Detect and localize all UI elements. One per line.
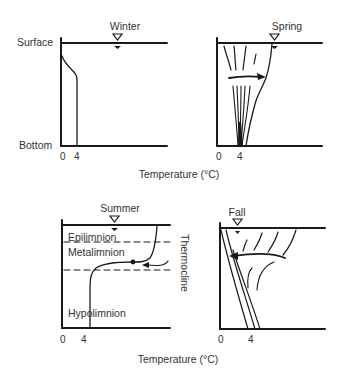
surface-label: Surface: [17, 37, 53, 48]
fall-surface-mixing: [268, 232, 278, 252]
x-axis-label-top: Temperature (°C): [139, 169, 220, 180]
fall-title: Fall: [229, 207, 246, 218]
spring-mixing-line: [243, 46, 246, 70]
fall-mixing-arrow: [233, 254, 285, 258]
water-level-icon: [233, 219, 242, 225]
spring-tick-4: 4: [237, 152, 243, 162]
x-axis-label-bottom: Temperature (°C): [138, 354, 219, 365]
spring-mixing-line: [254, 54, 256, 64]
winter-tick-0: 0: [60, 152, 66, 162]
fall-surface-mixing: [254, 233, 262, 250]
bottom-label: Bottom: [19, 140, 52, 151]
summer-tick-0: 0: [60, 335, 66, 345]
water-level-icon: [270, 34, 279, 40]
winter-temperature-profile: [62, 56, 77, 146]
summer-title: Summer: [100, 203, 140, 214]
fall-panel: [220, 219, 325, 329]
hypolimnion-label: Hypolimnion: [68, 308, 126, 319]
thermocline-label: Thermocline: [180, 234, 191, 292]
water-level-marker-icon: [235, 231, 240, 234]
fall-mixing-line: [257, 262, 274, 290]
winter-panel: [61, 34, 167, 146]
fall-cooling-line: [221, 230, 248, 329]
metalimnion-label: Metalimnion: [68, 247, 125, 258]
spring-title: Spring: [272, 21, 302, 32]
water-level-marker-icon: [114, 46, 121, 49]
spring-panel: [217, 34, 322, 146]
fall-tick-0: 0: [218, 335, 224, 345]
epilimnion-label: Epilimnion: [68, 232, 116, 243]
fall-cooling-line: [226, 230, 255, 329]
summer-tick-4: 4: [81, 335, 87, 345]
water-level-icon: [113, 34, 122, 40]
winter-tick-4: 4: [74, 152, 80, 162]
winter-title: Winter: [110, 21, 140, 32]
water-level-icon: [110, 216, 119, 222]
arrow-head-icon: [257, 73, 266, 80]
fall-tick-4: 4: [248, 335, 254, 345]
arrow-head-icon: [142, 262, 149, 268]
spring-tick-0: 0: [216, 152, 222, 162]
thermocline-point: [131, 260, 136, 265]
fall-surface-mixing: [283, 230, 296, 255]
spring-warming-profile: [246, 44, 272, 146]
thermocline-arrow: [146, 261, 168, 266]
spring-mixing-line: [234, 46, 236, 70]
lake-stratification-diagram: [0, 0, 341, 373]
spring-mixing-line: [224, 46, 231, 70]
fall-surface-mixing: [243, 240, 247, 251]
fall-mixing-line: [248, 268, 252, 288]
spring-mixing-arrow: [229, 76, 262, 78]
